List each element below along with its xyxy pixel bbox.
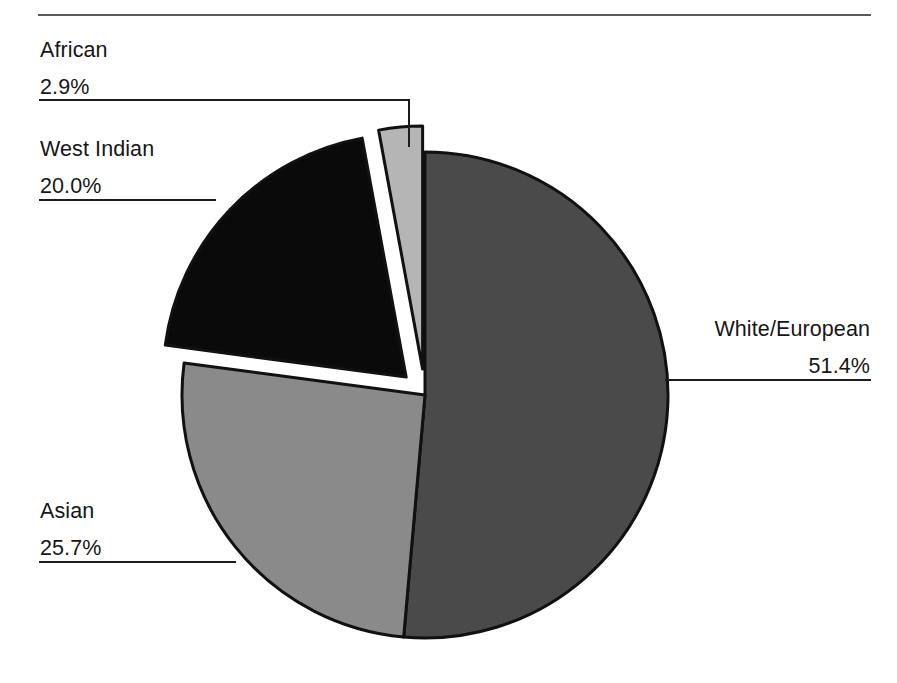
callout-african: African 2.9%: [40, 32, 108, 106]
callout-west-indian-name: West Indian: [40, 131, 154, 168]
callout-asian: Asian 25.7%: [40, 493, 101, 567]
callout-asian-value: 25.7%: [40, 530, 101, 567]
callout-white-european-value: 51.4%: [714, 348, 870, 385]
callout-african-value: 2.9%: [40, 69, 108, 106]
callout-african-name: African: [40, 32, 108, 69]
callout-west-indian: West Indian 20.0%: [40, 131, 154, 205]
callout-white-european-name: White/European: [714, 311, 870, 348]
pie-slice-asian[interactable]: [182, 363, 425, 637]
callout-white-european: White/European 51.4%: [714, 311, 870, 385]
pie-chart-page: African 2.9% West Indian 20.0% Asian 25.…: [0, 0, 897, 683]
callout-west-indian-value: 20.0%: [40, 168, 154, 205]
pie-slice-white-european[interactable]: [404, 152, 668, 638]
pie-slice-west-indian[interactable]: [165, 138, 406, 377]
callout-asian-name: Asian: [40, 493, 101, 530]
pie-slices: [165, 126, 668, 638]
leader-line-african-vertical: [408, 99, 410, 147]
